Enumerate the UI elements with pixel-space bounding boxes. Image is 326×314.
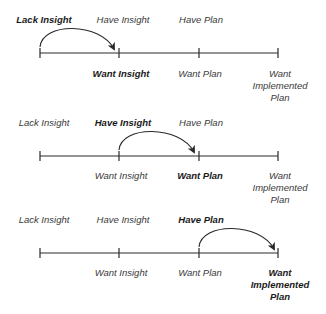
label-line: Implemented xyxy=(245,182,315,194)
label-line: Implemented xyxy=(245,80,315,92)
panel-1: Lack Insight Have Insight Have Plan Want… xyxy=(0,0,326,104)
transition-arrow xyxy=(199,228,274,249)
label-have-plan: Have Plan xyxy=(179,14,223,26)
transition-arrow xyxy=(119,131,194,152)
label-want-plan: Want Plan xyxy=(177,170,223,182)
label-want-implemented-plan: Want Implemented Plan xyxy=(245,267,315,303)
label-want-insight: Want Insight xyxy=(95,170,148,182)
transition-arrow xyxy=(40,28,114,49)
panel-2: Lack Insight Have Insight Have Plan Want… xyxy=(0,103,326,207)
label-line: Implemented xyxy=(245,279,315,291)
label-lack-insight: Lack Insight xyxy=(19,214,70,226)
label-have-plan: Have Plan xyxy=(179,117,223,129)
label-have-insight: Have Insight xyxy=(97,214,150,226)
label-want-plan: Want Plan xyxy=(178,68,222,80)
label-have-insight: Have Insight xyxy=(97,14,150,26)
label-have-insight: Have Insight xyxy=(95,117,152,129)
label-line: Want xyxy=(245,68,315,80)
label-line: Plan xyxy=(245,291,315,303)
label-want-insight: Want Insight xyxy=(93,68,150,80)
label-have-plan: Have Plan xyxy=(178,214,223,226)
label-lack-insight: Lack Insight xyxy=(19,117,70,129)
label-line: Want xyxy=(245,170,315,182)
label-want-plan: Want Plan xyxy=(178,267,222,279)
panel-3: Lack Insight Have Insight Have Plan Want… xyxy=(0,200,326,304)
label-line: Want xyxy=(245,267,315,279)
label-want-insight: Want Insight xyxy=(95,267,148,279)
label-lack-insight: Lack Insight xyxy=(16,14,71,26)
label-want-implemented-plan: Want Implemented Plan xyxy=(245,68,315,104)
